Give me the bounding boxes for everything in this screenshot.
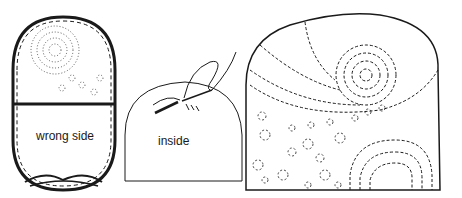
sewing-panel bbox=[125, 52, 242, 181]
wrong-side-label: wrong side bbox=[35, 129, 94, 143]
needle-icon bbox=[182, 90, 212, 101]
pouch-panel bbox=[13, 17, 115, 190]
illustration: wrong side inside bbox=[0, 0, 462, 198]
finished-cozy-panel bbox=[246, 14, 440, 190]
inside-label: inside bbox=[158, 134, 190, 148]
stitch-line bbox=[155, 102, 178, 113]
